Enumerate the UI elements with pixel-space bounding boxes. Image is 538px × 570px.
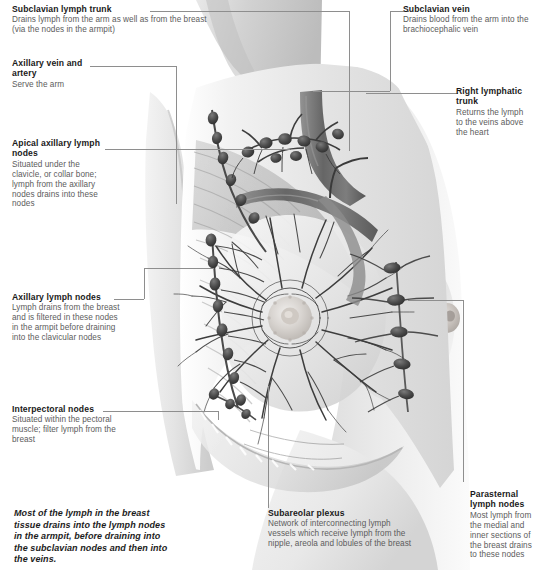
callout-right-lymphatic-trunk: Right lymphatic trunk Returns the lymph … [456,86,532,138]
leader-interpectoral-v [218,411,219,420]
callout-body: Lymph drains from the breast and is filt… [12,303,125,343]
leader-axillary-nodes-h2 [144,268,214,269]
callout-body: Most lymph from the medial and inner sec… [470,511,536,561]
callout-title: Parasternal lymph nodes [470,489,536,510]
callout-body: Situated within the pectoral muscle; fil… [12,415,118,445]
callout-subclavian-vein: Subclavian vein Drains blood from the ar… [403,4,535,35]
callout-body: Situated under the clavicle, or collar b… [12,160,104,210]
leader-parasternal-v [463,300,464,482]
callout-title: Axillary vein and artery [12,58,92,79]
callout-title: Interpectoral nodes [12,404,118,414]
callout-title: Right lymphatic trunk [456,86,532,107]
leader-axillary-nodes-v [144,268,145,299]
callout-parasternal-lymph-nodes: Parasternal lymph nodes Most lymph from … [470,489,536,560]
nipple-tip [285,311,293,318]
leader-interpectoral-h [103,411,218,412]
callout-title: Apical axillary lymph nodes [12,138,104,159]
leader-axillary-vein-v [176,66,177,204]
leader-apical-axillary-h [105,149,168,150]
summary-text: Most of the lymph in the breast tissue d… [14,508,172,566]
callout-apical-axillary-lymph-nodes: Apical axillary lymph nodes Situated und… [12,138,104,209]
leader-subclavian-vein-h2 [313,91,390,92]
callout-axillary-lymph-nodes: Axillary lymph nodes Lymph drains from t… [12,292,125,343]
callout-subclavian-lymph-trunk: Subclavian lymph trunk Drains lymph from… [12,4,212,35]
callout-title: Axillary lymph nodes [12,292,125,302]
callout-body: Drains blood from the arm into the brach… [403,15,535,35]
leader-subclavian-vein-v [390,11,391,91]
callout-title: Subclavian lymph trunk [12,4,212,14]
callout-axillary-vein-and-artery: Axillary vein and artery Serve the arm [12,58,92,90]
callout-title: Subareolar plexus [268,508,418,518]
callout-interpectoral-nodes: Interpectoral nodes Situated within the … [12,404,118,445]
leader-parasternal-h [408,300,463,301]
callout-body: Network of interconnecting lymph vessels… [268,519,418,549]
callout-body: Drains lymph from the arm as well as fro… [12,15,212,35]
callout-title: Subclavian vein [403,4,535,14]
leader-subareolar-v [268,386,269,508]
leader-apical-axillary-h2 [168,149,290,150]
callout-body: Returns the lymph to the veins above the… [456,108,532,138]
callout-body: Serve the arm [12,80,92,90]
leader-right-lymphatic-trunk-h2 [366,93,441,94]
callout-subareolar-plexus: Subareolar plexus Network of interconnec… [268,508,418,549]
leader-subclavian-lymph-trunk-v [349,11,350,151]
leader-axillary-vein-h [90,66,176,67]
